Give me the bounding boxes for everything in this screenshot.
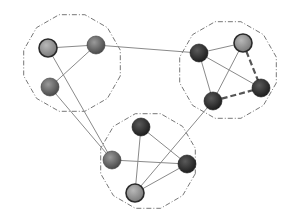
edge-n1-n9 bbox=[48, 48, 112, 160]
node-n1 bbox=[39, 39, 57, 57]
node-n10 bbox=[178, 155, 196, 173]
network-diagram bbox=[0, 0, 292, 219]
edge-n3-n9 bbox=[50, 87, 112, 160]
edge-n8-n11 bbox=[135, 127, 141, 193]
node-n11 bbox=[126, 184, 144, 202]
node-n7 bbox=[204, 92, 222, 110]
right-cluster-outline bbox=[180, 22, 277, 119]
edge-n2-n4 bbox=[96, 45, 199, 53]
node-n4 bbox=[190, 44, 208, 62]
node-n6 bbox=[252, 79, 270, 97]
node-n5 bbox=[234, 34, 252, 52]
node-n2 bbox=[87, 36, 105, 54]
node-n8 bbox=[132, 118, 150, 136]
edge-n4-n6 bbox=[199, 53, 261, 88]
edge-n9-n10 bbox=[112, 160, 187, 164]
node-n3 bbox=[41, 78, 59, 96]
left-cluster-outline bbox=[24, 15, 121, 112]
edge-n11-n7 bbox=[135, 101, 213, 193]
node-n9 bbox=[103, 151, 121, 169]
